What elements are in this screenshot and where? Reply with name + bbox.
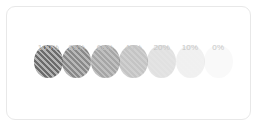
- opacity-swatch-label: 0%: [201, 43, 235, 53]
- opacity-swatch-row: 100%80%60%40%20%10%0%: [7, 7, 250, 119]
- opacity-scale-card: 100%80%60%40%20%10%0%: [6, 6, 251, 120]
